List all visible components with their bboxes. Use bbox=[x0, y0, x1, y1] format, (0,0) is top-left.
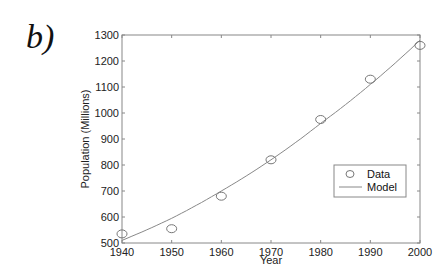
data-point-marker bbox=[365, 75, 375, 83]
x-axis-label: Year bbox=[260, 254, 283, 266]
model-line bbox=[122, 40, 420, 240]
x-tick-label: 1980 bbox=[308, 246, 332, 258]
y-tick-label: 1200 bbox=[95, 55, 119, 67]
x-tick-label: 1990 bbox=[358, 246, 382, 258]
y-tick-label: 1000 bbox=[95, 107, 119, 119]
plot-axes bbox=[122, 35, 420, 243]
y-tick-label: 700 bbox=[101, 185, 119, 197]
data-point-marker bbox=[316, 116, 326, 124]
data-point-marker bbox=[167, 225, 177, 233]
x-tick-label: 1960 bbox=[209, 246, 233, 258]
legend-label: Model bbox=[367, 181, 397, 193]
model-curve bbox=[122, 40, 420, 240]
data-points bbox=[117, 41, 425, 238]
y-tick-label: 900 bbox=[101, 133, 119, 145]
y-tick-label: 1300 bbox=[95, 29, 119, 41]
legend-label: Data bbox=[367, 168, 391, 180]
data-point-marker bbox=[216, 192, 226, 200]
x-tick-label: 1940 bbox=[110, 246, 134, 258]
y-tick-label: 800 bbox=[101, 159, 119, 171]
y-tick-label: 600 bbox=[101, 211, 119, 223]
y-tick-label: 1100 bbox=[95, 81, 119, 93]
x-tick-label: 1950 bbox=[159, 246, 183, 258]
y-axis-ticks: 5006007008009001000110012001300 bbox=[95, 29, 420, 249]
plot-frame bbox=[122, 35, 420, 243]
legend: DataModel bbox=[334, 165, 406, 197]
x-tick-label: 2000 bbox=[408, 246, 432, 258]
population-chart: 5006007008009001000110012001300 19401950… bbox=[0, 0, 446, 271]
y-axis-label: Population (Millions) bbox=[79, 89, 91, 188]
